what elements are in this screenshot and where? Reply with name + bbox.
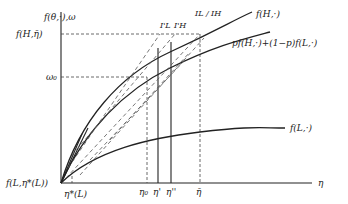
f-l-curve (61, 128, 285, 183)
iso-sep: / (205, 9, 210, 18)
f-l-curve-label: f(L,·) (289, 123, 313, 133)
il-prime-label: I'L (159, 21, 171, 30)
f-h-curve (61, 12, 252, 183)
mix-curve-label: pf(H,·)+(1−p)f(L,·) (232, 38, 318, 48)
eta-star-l-label: η*(L) (64, 189, 87, 199)
eta-dprime-label: η'' (166, 187, 176, 197)
eta-bar-label: η̄ (196, 187, 202, 197)
f-h-etabar-label: f(H,η̄) (15, 29, 43, 39)
f-h-curve-label: f(H,·) (255, 9, 280, 19)
ray-2 (61, 134, 82, 183)
origin-label: f(L,η*(L)) (5, 178, 49, 188)
eta-prime-label: η' (153, 187, 161, 197)
iso-ih-prime (72, 34, 175, 155)
diagram: f(θ,·),ω f(H,η̄) ω₀ f(L,η*(L)) η*(L) η₀ … (0, 0, 348, 204)
x-axis-label: η (318, 178, 324, 188)
eta0-label: η₀ (139, 187, 148, 197)
iso-ih (80, 38, 204, 175)
ih-prime-label: I'H (173, 21, 187, 30)
y-axis-label: f(θ,·),ω (43, 12, 76, 22)
iso-il (66, 34, 200, 178)
il-label: IL (194, 9, 203, 18)
omega0-label: ω₀ (46, 72, 57, 82)
iso-il-prime (68, 34, 160, 168)
ih-label: IH (210, 9, 222, 18)
